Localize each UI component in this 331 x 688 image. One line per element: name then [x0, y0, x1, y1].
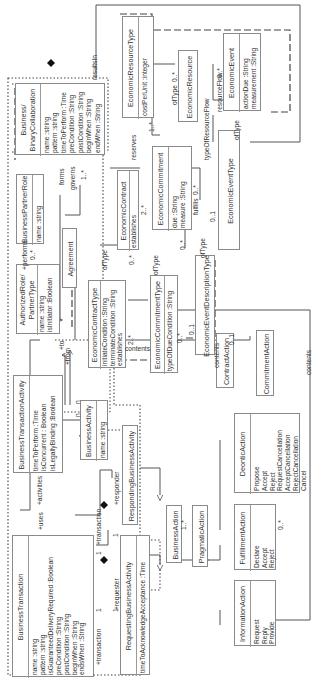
- label-mult: 0..*: [216, 68, 223, 78]
- class-requesting-business-activity[interactable]: RequestingBusinessActivity timeToAcknowl…: [120, 535, 150, 675]
- label-mult: 0..1: [188, 324, 195, 335]
- class-pragmatic-action[interactable]: PragmaticAction: [192, 505, 208, 567]
- label-mult: 1..*: [180, 520, 187, 530]
- label-type-of-resource-flow: typeOfResourceFlow: [203, 98, 210, 160]
- label-of-type: ofType: [152, 255, 159, 275]
- class-name: EconomicResource: [179, 51, 199, 123]
- class-economic-resource-type[interactable]: EconomicResourceType costPerUnit :intege…: [122, 16, 154, 118]
- class-name: BusinessActivity: [81, 401, 97, 461]
- class-name: EconomicContractType: [89, 281, 101, 369]
- class-responding-business-activity[interactable]: RespondingBusinessActivity: [122, 425, 138, 525]
- class-business-partner-role[interactable]: BusinessPartnerRole name :string: [16, 174, 44, 244]
- class-name: PragmaticAction: [193, 506, 209, 568]
- label-activities: +activities: [36, 476, 43, 505]
- label-of-type: ofType: [101, 250, 108, 270]
- label-from: +from: [64, 348, 71, 365]
- class-name: FulfillmentAction: [235, 505, 251, 571]
- class-name: EconomicEventType: [219, 131, 241, 251]
- label-mult: 0..*: [277, 520, 284, 530]
- label-of-type: ofType: [199, 238, 206, 258]
- class-commitment-action[interactable]: CommitmentAction: [256, 330, 274, 396]
- label-reserves: reserves: [130, 135, 137, 160]
- class-business-activity[interactable]: BusinessActivity name :string: [80, 400, 108, 460]
- label-mult: 0..1: [228, 334, 235, 345]
- class-name: EconomicContract: [118, 171, 130, 251]
- label-forms: forms: [58, 169, 65, 185]
- label-resource-flow: resourceFlow: [216, 72, 223, 112]
- class-fulfillment-action[interactable]: FulfillmentAction Declare Accept Reject: [234, 504, 276, 570]
- class-economic-event[interactable]: EconomicEvent actionDue :String measurem…: [223, 33, 261, 111]
- class-name: AuthorizedRole/ PartnerType: [17, 265, 38, 335]
- label-responder: +responder: [113, 471, 120, 505]
- class-attributes: name :string pattern :string isGuarantee…: [29, 536, 88, 678]
- label-results-in: resultsIn: [91, 55, 98, 80]
- class-attributes: name :string: [97, 401, 109, 461]
- class-attributes: Request Reply Provide: [251, 581, 278, 647]
- class-economic-contract[interactable]: EconomicContract establishes: [117, 170, 139, 250]
- label-fulfills: fulfills: [192, 199, 199, 216]
- class-business-action[interactable]: BusinessAction: [166, 505, 182, 563]
- uml-diagram: EconomicResourceType costPerUnit :intege…: [0, 0, 331, 688]
- label-mult: 0..*: [192, 185, 199, 195]
- label-n: n: [74, 413, 81, 417]
- class-economic-commitment[interactable]: EconomicCommitment due :String measure :…: [152, 146, 192, 230]
- class-name: Agreement: [63, 229, 78, 289]
- class-attributes: actionDue :String measurement :String: [240, 34, 261, 112]
- label-mult: 2..*: [127, 335, 134, 345]
- class-name: EconomicEvent: [224, 34, 240, 112]
- class-name: Business/ BinaryCollaboration: [16, 84, 41, 156]
- label-mult: 1: [95, 551, 102, 555]
- label-mult: 2..*: [140, 205, 147, 215]
- class-attributes: name :string isInitiator :Boolean: [38, 265, 55, 335]
- class-deontic-action[interactable]: DeonticAction Propose Accept Reject Requ…: [234, 413, 300, 493]
- label-governs: governs: [69, 167, 76, 190]
- class-information-action[interactable]: InformationAction Request Reply Provide: [234, 580, 276, 646]
- class-name: InformationAction: [235, 581, 251, 647]
- class-name: EconomicCommitment: [153, 147, 169, 231]
- label-mult: 0..*: [29, 250, 36, 260]
- class-economic-resource[interactable]: EconomicResource: [178, 50, 198, 122]
- label-mult: 0..*: [179, 240, 186, 250]
- class-business-transaction[interactable]: BusinessTransaction name :string pattern…: [12, 535, 94, 677]
- label-contents: contents: [305, 350, 312, 375]
- label-mult: 1..*: [80, 170, 87, 180]
- class-name: RequestingBusinessActivity: [121, 536, 137, 676]
- label-mult: 0..1: [209, 211, 216, 222]
- class-attributes: timeToPerform :Time isConcurrent : Boole…: [30, 376, 59, 474]
- class-authorized-role[interactable]: AuthorizedRole/ PartnerType name :string…: [16, 264, 60, 334]
- label-transaction: +transaction: [95, 629, 102, 665]
- class-economic-commitment-type[interactable]: EconomicCommitmentType typeOfDueConditio…: [150, 275, 178, 373]
- class-attributes: name :string pattern :string timeToPerfo…: [41, 84, 104, 156]
- class-economic-event-description-type[interactable]: EconomicEventDescriptionType: [195, 255, 215, 355]
- label-mult: 1: [112, 533, 119, 537]
- label-mult: 1..*: [148, 122, 155, 132]
- class-economic-contract-type[interactable]: EconomicContractType initiateCondition :…: [88, 280, 126, 368]
- class-attributes: Propose Accept Reject RequestCancellatio…: [251, 414, 309, 494]
- class-name: RespondingBusinessActivity: [123, 426, 139, 526]
- class-name: EconomicEventDescriptionType: [196, 256, 216, 356]
- label-contents: contents: [125, 345, 150, 352]
- class-attributes: Declare Accept Reject: [251, 505, 278, 571]
- class-name: BusinessPartnerRole: [17, 175, 33, 245]
- class-business-transaction-activity[interactable]: BusinessTransactionActivity timeToPerfor…: [13, 375, 63, 473]
- class-name: BusinessTransaction: [13, 536, 29, 678]
- label-mult: 0..*: [128, 255, 135, 265]
- label-contents: contents: [213, 343, 220, 368]
- class-attributes: due :String measure :String: [169, 147, 190, 231]
- class-binary-collaboration[interactable]: Business/ BinaryCollaboration name :stri…: [15, 83, 105, 155]
- class-agreement[interactable]: Agreement: [62, 228, 77, 288]
- label-performs: +performs: [21, 240, 28, 270]
- class-name: BusinessTransactionActivity: [14, 376, 30, 474]
- class-attributes: name :string: [33, 175, 45, 245]
- label-mult: 1: [112, 608, 119, 612]
- label-requester: +requester: [113, 578, 120, 610]
- label-n: n: [74, 400, 81, 404]
- class-economic-event-type[interactable]: EconomicEventType: [218, 130, 240, 250]
- class-name: EconomicCommitmentType: [151, 276, 165, 374]
- label-of-type: ofType: [233, 120, 240, 140]
- class-name: EconomicResourceType: [123, 17, 139, 119]
- class-attributes: timeToAcknowledgeAcceptance :Time: [137, 536, 149, 676]
- label-of-type: ofType: [171, 85, 178, 105]
- label-mult: 0..*: [176, 333, 183, 343]
- class-attributes: costPerUnit :integer: [139, 17, 151, 119]
